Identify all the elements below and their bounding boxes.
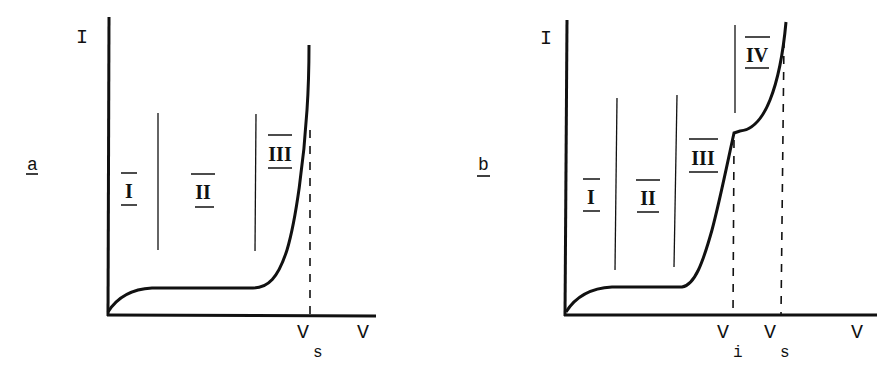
panel-b-label: b bbox=[478, 155, 489, 175]
svg-text:III: III bbox=[691, 147, 715, 169]
svg-text:V: V bbox=[717, 321, 729, 344]
svg-text:s: s bbox=[780, 344, 790, 362]
panel-a: a I I II III V s V bbox=[26, 17, 376, 362]
panel-b-vs-dashed-line bbox=[781, 40, 784, 315]
panel-b-vs-marker-label: V s bbox=[764, 321, 790, 362]
panel-a-y-axis bbox=[108, 17, 109, 316]
svg-text:II: II bbox=[195, 181, 211, 203]
panel-a-vs-marker-label: V s bbox=[297, 321, 323, 362]
svg-text:V: V bbox=[764, 321, 776, 344]
panel-b-region-I: I bbox=[583, 179, 600, 211]
panel-a-label: a bbox=[27, 155, 38, 175]
svg-text:i: i bbox=[733, 344, 743, 362]
panel-a-iv-curve bbox=[108, 45, 309, 312]
panel-b-x-axis-label: V bbox=[851, 321, 863, 344]
panel-b: b I I II III IV bbox=[477, 20, 877, 362]
svg-text:I: I bbox=[587, 186, 595, 208]
svg-text:V: V bbox=[297, 321, 309, 344]
panel-b-divider-2 bbox=[674, 95, 677, 267]
svg-text:II: II bbox=[640, 187, 656, 209]
panel-a-region-III: III bbox=[268, 135, 292, 168]
panel-b-region-IV: IV bbox=[745, 37, 770, 68]
panel-b-vi-marker-label: V i bbox=[717, 321, 743, 362]
panel-a-x-axis-label: V bbox=[357, 321, 369, 344]
svg-text:s: s bbox=[313, 344, 323, 362]
svg-text:IV: IV bbox=[746, 44, 769, 66]
panel-b-y-axis-label: I bbox=[540, 27, 552, 50]
panel-a-region-I: I bbox=[121, 173, 137, 205]
svg-text:III: III bbox=[268, 143, 292, 165]
panel-b-region-III: III bbox=[689, 139, 718, 172]
panel-b-vi-dashed-line bbox=[733, 140, 734, 315]
panel-a-x-axis bbox=[107, 315, 376, 316]
panel-b-region-II: II bbox=[636, 180, 660, 212]
panel-a-divider-2 bbox=[255, 114, 256, 251]
iv-characteristic-diagram: a I I II III V s V bbox=[0, 0, 879, 367]
panel-a-region-II: II bbox=[191, 174, 215, 207]
panel-a-y-axis-label: I bbox=[76, 26, 88, 49]
panel-b-divider-1 bbox=[615, 98, 617, 270]
panel-b-y-axis bbox=[565, 20, 567, 316]
svg-text:I: I bbox=[125, 180, 133, 202]
